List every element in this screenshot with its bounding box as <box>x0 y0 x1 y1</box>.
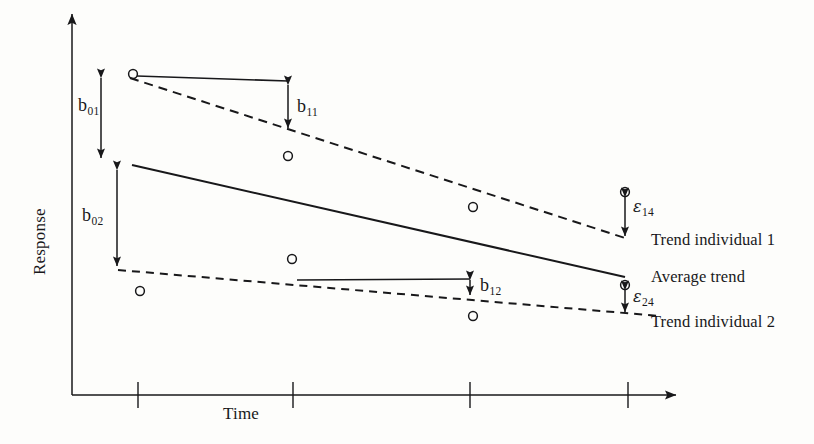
annotation-label-eps14: ε14 <box>633 196 654 217</box>
epsilon-glyph: ε <box>633 287 642 306</box>
reference-segment-individual-2 <box>297 279 470 280</box>
annotation-sub-eps24: 24 <box>642 296 654 308</box>
data-point <box>284 152 293 161</box>
series-average-trend <box>132 165 625 277</box>
y-axis-label: Response <box>30 208 50 275</box>
annotation-label-b12: b12 <box>480 275 501 296</box>
reference-segment-individual-1 <box>137 76 288 81</box>
x-axis-label: Time <box>223 404 259 424</box>
data-point <box>288 255 297 264</box>
epsilon-glyph: ε <box>633 197 642 216</box>
annotation-sub-b01: 01 <box>88 105 100 117</box>
average-trend-line <box>132 165 625 277</box>
annotation-sub-b11: 11 <box>307 106 318 118</box>
legend-label-trend-individual-1: Trend individual 1 <box>651 230 775 250</box>
data-point <box>469 312 478 321</box>
figure-canvas <box>0 0 814 444</box>
legend-label-trend-individual-2: Trend individual 2 <box>651 312 775 332</box>
data-point <box>621 281 630 290</box>
growth-curve-figure: Response Time b01 b02 b11 b12 ε14 ε24 Tr… <box>0 0 814 444</box>
data-point <box>136 287 145 296</box>
annotation-label-b01: b01 <box>78 95 99 116</box>
annotation-label-b11: b11 <box>297 96 317 117</box>
data-point <box>129 70 138 79</box>
annotation-sub-eps14: 14 <box>642 206 654 218</box>
axis-group <box>72 14 676 408</box>
data-point <box>469 203 478 212</box>
trend-individual-2-line <box>118 270 660 316</box>
series-trend-individual-1 <box>129 70 630 238</box>
annotation-sub-b02: 02 <box>92 215 104 227</box>
annotation-label-eps24: ε24 <box>633 286 654 307</box>
trend-individual-1-line <box>130 78 625 238</box>
annotation-label-b02: b02 <box>82 205 103 226</box>
data-point <box>621 188 630 197</box>
annotation-sub-b12: 12 <box>490 285 502 297</box>
annotation-arrows <box>101 78 625 312</box>
legend-label-average-trend: Average trend <box>651 267 745 287</box>
series-trend-individual-2 <box>118 255 660 321</box>
